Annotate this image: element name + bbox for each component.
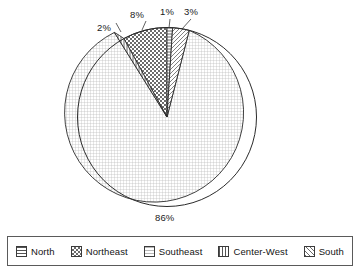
- legend-label-north: North: [31, 246, 55, 257]
- legend-item-center-west[interactable]: Center-West: [218, 246, 287, 257]
- pie-label-center-west: 2%: [97, 22, 111, 33]
- legend-swatch-southeast-icon: [144, 246, 155, 257]
- legend-label-south: South: [319, 246, 344, 257]
- pie-chart-figure: 2% 8% 1% 3% 86% North Northeast Southeas…: [0, 0, 362, 278]
- legend-item-northeast[interactable]: Northeast: [71, 246, 128, 257]
- legend-label-center-west: Center-West: [233, 246, 287, 257]
- legend: North Northeast Southeast Center-West So…: [7, 236, 353, 266]
- legend-swatch-northeast-icon: [71, 246, 82, 257]
- pie-plot-area: 2% 8% 1% 3% 86%: [0, 0, 362, 228]
- leader-line-south: [182, 19, 191, 29]
- legend-swatch-south-icon: [304, 246, 315, 257]
- legend-swatch-north-icon: [16, 246, 27, 257]
- legend-row: North Northeast Southeast Center-West So…: [8, 237, 352, 265]
- pie-svg: [0, 0, 362, 228]
- legend-item-southeast[interactable]: Southeast: [144, 246, 203, 257]
- legend-item-north[interactable]: North: [16, 246, 55, 257]
- leader-line-north: [169, 19, 170, 28]
- pie-label-northeast: 8%: [130, 9, 144, 20]
- leader-line-center-west: [116, 23, 121, 32]
- legend-label-southeast: Southeast: [159, 246, 203, 257]
- legend-swatch-center-west-icon: [218, 246, 229, 257]
- pie-label-south: 3%: [184, 6, 198, 17]
- pie-label-southeast: 86%: [155, 212, 174, 223]
- legend-item-south[interactable]: South: [304, 246, 344, 257]
- pie-label-north: 1%: [160, 6, 174, 17]
- leader-line-northeast: [142, 21, 146, 30]
- legend-label-northeast: Northeast: [86, 246, 128, 257]
